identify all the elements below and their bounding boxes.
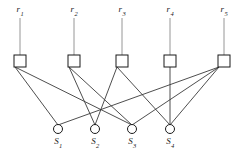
label-r4: r4	[167, 5, 174, 16]
edge-r5-s3	[132, 67, 219, 125]
diagram-canvas: r1 r2 r3 r4 r5 S1 S2 S3 S4	[0, 0, 244, 157]
label-r1-sub: 1	[20, 10, 23, 17]
label-r3-base: r	[119, 4, 123, 14]
label-r2-sub: 2	[74, 10, 77, 17]
label-r2-base: r	[71, 4, 75, 14]
label-s2: S2	[91, 137, 99, 148]
edges-group	[15, 67, 219, 125]
edge-r1-s1	[15, 67, 58, 125]
label-r5: r5	[221, 5, 228, 16]
node-circle-s1[interactable]	[54, 125, 63, 134]
node-circle-s4[interactable]	[166, 125, 175, 134]
node-circle-s2[interactable]	[91, 125, 100, 134]
label-s1-base: S	[54, 136, 59, 146]
label-s3: S3	[128, 137, 136, 148]
label-r4-sub: 4	[170, 10, 173, 17]
label-s1: S1	[54, 137, 62, 148]
node-square-r5[interactable]	[218, 55, 230, 67]
label-r5-base: r	[221, 4, 225, 14]
label-r2: r2	[71, 5, 78, 16]
label-s2-base: S	[91, 136, 96, 146]
node-square-r4[interactable]	[164, 55, 176, 67]
label-s4-base: S	[166, 136, 171, 146]
node-circle-s3[interactable]	[128, 125, 137, 134]
node-square-r2[interactable]	[68, 55, 80, 67]
label-r1: r1	[17, 5, 24, 16]
label-s1-sub: 1	[59, 142, 62, 149]
edge-r2-s3	[69, 67, 132, 125]
bipartite-graph-svg	[0, 0, 244, 157]
top-nodes-group	[14, 55, 230, 67]
stem-lines-group	[20, 18, 224, 55]
label-s2-sub: 2	[96, 142, 99, 149]
label-s4-sub: 4	[171, 142, 174, 149]
node-square-r3[interactable]	[116, 55, 128, 67]
label-r4-base: r	[167, 4, 171, 14]
edge-r1-s3	[15, 67, 132, 125]
bottom-nodes-group	[54, 125, 175, 134]
node-square-r1[interactable]	[14, 55, 26, 67]
label-s3-base: S	[128, 136, 133, 146]
label-r3-sub: 3	[122, 10, 125, 17]
label-r3: r3	[119, 5, 126, 16]
label-s4: S4	[166, 137, 174, 148]
label-s3-sub: 3	[133, 142, 136, 149]
label-r5-sub: 5	[224, 10, 227, 17]
edge-r3-s4	[117, 67, 170, 125]
label-r1-base: r	[17, 4, 21, 14]
